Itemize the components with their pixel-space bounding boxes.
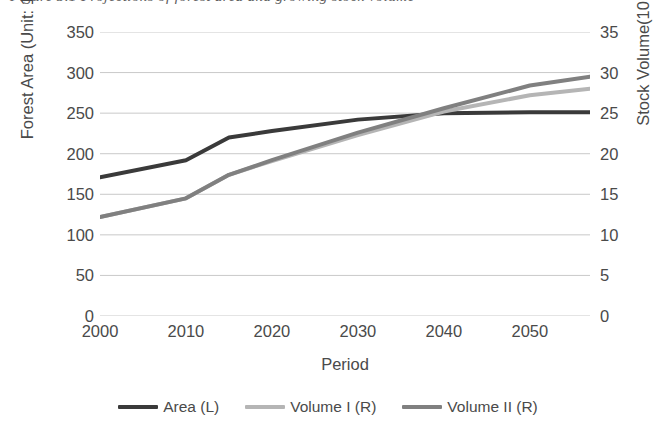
y-axis-left-tick-label: 150: [48, 186, 94, 203]
legend-label: Volume II (R): [447, 398, 537, 416]
y-axis-right-tick-label: 0: [600, 308, 646, 325]
legend-item[interactable]: Volume II (R): [402, 398, 537, 416]
y-axis-left-ticks: 050100150200250300350: [48, 0, 94, 442]
x-axis-tick-label: 2020: [237, 322, 307, 341]
legend-swatch: [402, 405, 442, 409]
x-axis-tick-label: 2040: [409, 322, 479, 341]
y-axis-left-tick-label: 250: [48, 105, 94, 122]
legend-label: Volume I (R): [290, 398, 376, 416]
legend-item[interactable]: Volume I (R): [245, 398, 376, 416]
y-axis-right-tick-label: 20: [600, 146, 646, 163]
figure-caption-clipped: Figure 3.1 Projections of forest area an…: [0, 0, 656, 13]
y-axis-left-tick-label: 200: [48, 146, 94, 163]
x-axis-title: Period: [100, 355, 590, 374]
x-axis-tick-label: 2050: [495, 322, 565, 341]
y-axis-right-tick-label: 15: [600, 186, 646, 203]
series-line: [100, 89, 590, 217]
series-lines: [100, 77, 590, 217]
legend-swatch: [118, 405, 158, 409]
y-axis-left-tick-label: 350: [48, 24, 94, 41]
y-axis-right-tick-label: 5: [600, 267, 646, 284]
y-axis-left-tick-label: 100: [48, 227, 94, 244]
y-axis-right-tick-label: 30: [600, 65, 646, 82]
gridlines: [100, 32, 590, 316]
y-axis-right-ticks: 05101520253035: [600, 0, 646, 442]
x-axis-tick-label: 2000: [65, 322, 135, 341]
legend-label: Area (L): [163, 398, 219, 416]
legend-swatch: [245, 405, 285, 409]
x-axis-tick-label: 2030: [323, 322, 393, 341]
plot-area: [100, 32, 590, 316]
y-axis-left-tick-label: 300: [48, 65, 94, 82]
x-axis-tick-label: 2010: [151, 322, 221, 341]
y-axis-left-title: Forest Area (Unit: 10⁶ ha): [18, 0, 37, 191]
legend-item[interactable]: Area (L): [118, 398, 219, 416]
chart-legend: Area (L)Volume I (R)Volume II (R): [0, 398, 656, 416]
y-axis-left-tick-label: 50: [48, 267, 94, 284]
y-axis-right-tick-label: 35: [600, 24, 646, 41]
plot-svg: [100, 32, 590, 316]
y-axis-right-tick-label: 25: [600, 105, 646, 122]
y-axis-right-tick-label: 10: [600, 227, 646, 244]
chart-figure: Figure 3.1 Projections of forest area an…: [0, 0, 656, 442]
series-line: [100, 112, 590, 177]
